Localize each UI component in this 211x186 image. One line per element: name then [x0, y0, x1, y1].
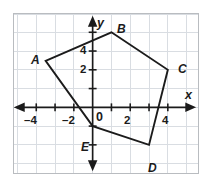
pentagon-outline	[46, 32, 168, 145]
polygon-abcde	[14, 14, 198, 173]
vertex-label-b: B	[117, 23, 126, 35]
graph-screenshot: –4 –2 2 4 2 4 0 x y A B C D E	[0, 0, 211, 186]
origin-label: 0	[96, 111, 103, 124]
vertex-label-e: E	[81, 141, 89, 153]
x-tick-label-pos2: 2	[124, 115, 130, 127]
y-tick-label-2: 2	[80, 64, 86, 76]
y-tick-label-4: 4	[80, 45, 86, 57]
x-tick-label-neg4: –4	[24, 115, 37, 127]
x-axis-label: x	[185, 89, 192, 102]
x-tick-label-pos4: 4	[162, 115, 168, 127]
x-tick-label-neg2: –2	[62, 115, 75, 127]
vertex-label-a: A	[31, 54, 40, 66]
y-axis-label: y	[97, 17, 104, 30]
coordinate-plane-frame	[13, 13, 199, 174]
vertex-label-c: C	[178, 63, 187, 75]
vertex-label-d: D	[148, 162, 157, 174]
